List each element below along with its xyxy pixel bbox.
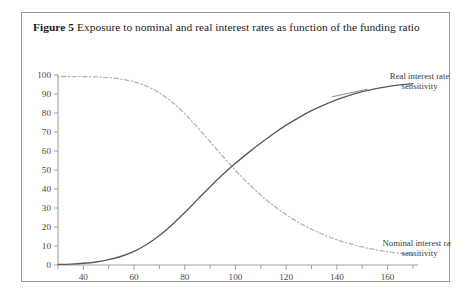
y-tick-label: 50 [42,165,52,175]
x-axis: 406080100120140160 [58,265,418,281]
nominal-series-label-line2: sensitivity [401,248,438,258]
real-series-annotation: Real interest rate sensitivity [332,71,450,97]
figure-caption: Figure 5 Exposure to nominal and real in… [33,20,433,35]
y-tick-label: 100 [37,70,51,80]
y-tick-label: 40 [42,184,52,194]
chart-plot-area: 0102030405060708090100 40608010012014016… [22,55,451,281]
nominal-series-annotation: Nominal interest rate sensitivity [382,238,451,258]
nominal-series-label-line1: Nominal interest rate [382,238,451,248]
x-tick-label: 160 [381,272,395,281]
figure-label: Figure 5 [33,21,74,33]
x-tick-label: 60 [129,272,139,281]
y-axis: 0102030405060708090100 [37,70,58,270]
y-tick-label: 0 [46,260,51,270]
interest-rate-sensitivity-chart: 0102030405060708090100 40608010012014016… [22,55,451,281]
real-series-label-line1: Real interest rate [390,71,450,81]
y-tick-label: 30 [42,203,52,213]
x-tick-label: 100 [229,272,243,281]
nominal-interest-rate-sensitivity-line [58,77,413,255]
x-tick-label: 120 [279,272,293,281]
real-series-label-line2: sensitivity [401,81,438,91]
y-tick-label: 80 [42,108,52,118]
y-tick-label: 60 [42,146,52,156]
y-axis-tick-labels: 0102030405060708090100 [37,70,51,270]
y-tick-label: 10 [42,241,52,251]
figure-container: Figure 5 Exposure to nominal and real in… [21,12,450,282]
y-tick-label: 90 [42,89,52,99]
x-axis-ticks [58,265,413,270]
x-tick-label: 80 [180,272,190,281]
x-tick-label: 140 [330,272,344,281]
figure-caption-text: Exposure to nominal and real interest ra… [77,21,420,33]
y-axis-ticks [54,75,58,265]
x-tick-label: 40 [79,272,89,281]
x-axis-tick-labels: 406080100120140160 [79,272,395,281]
y-tick-label: 20 [42,222,52,232]
y-tick-label: 70 [42,127,52,137]
real-interest-rate-sensitivity-line [58,84,413,265]
